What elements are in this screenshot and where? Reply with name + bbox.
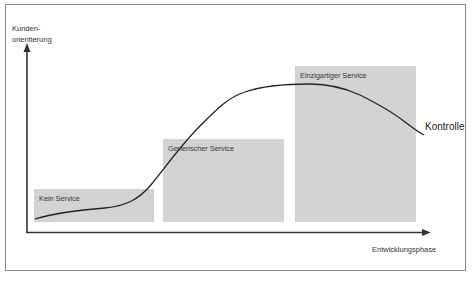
kontrolle-curve (35, 84, 424, 219)
x-axis (26, 229, 431, 236)
y-axis-label-line1: Kunden- (12, 24, 52, 35)
y-axis-label: Kunden- orientierung (12, 24, 52, 45)
y-axis (24, 43, 31, 233)
x-axis-arrow-icon (422, 229, 431, 236)
y-axis-label-line2: orientierung (12, 35, 52, 46)
curve-label-kontrolle: Kontrolle (425, 121, 464, 132)
diagram-graphics (0, 0, 473, 281)
x-axis-label: Entwicklungsphase (372, 245, 436, 256)
